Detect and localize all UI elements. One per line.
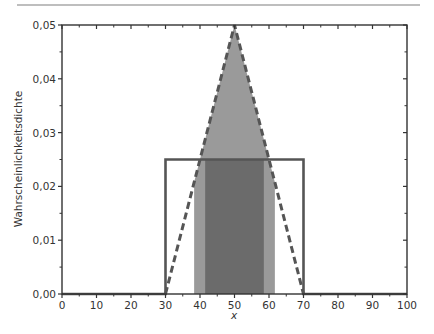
x-tick-label: 40 — [193, 299, 206, 311]
x-tick-label: 60 — [262, 299, 275, 311]
chart: 01020304050607080901000,000,010,020,030,… — [0, 0, 434, 334]
x-tick-label: 90 — [366, 299, 379, 311]
x-tick-label: 10 — [90, 299, 103, 311]
x-tick-label: 20 — [124, 299, 137, 311]
y-tick-label: 0,02 — [33, 180, 56, 192]
y-tick-label: 0,00 — [33, 288, 56, 300]
shaded-region — [205, 160, 264, 295]
y-axis-title: Wahrscheinlichkeitsdichte — [12, 91, 24, 228]
x-tick-label: 30 — [159, 299, 172, 311]
x-tick-label: 80 — [331, 299, 344, 311]
x-tick-label: 0 — [59, 299, 66, 311]
y-tick-label: 0,01 — [33, 234, 56, 246]
x-axis-title: x — [230, 309, 238, 321]
y-tick-label: 0,04 — [33, 73, 57, 85]
y-tick-label: 0,05 — [33, 19, 56, 31]
x-tick-label: 70 — [297, 299, 310, 311]
x-tick-label: 100 — [397, 299, 417, 311]
y-tick-label: 0,03 — [33, 127, 56, 139]
plot-area — [62, 25, 407, 294]
